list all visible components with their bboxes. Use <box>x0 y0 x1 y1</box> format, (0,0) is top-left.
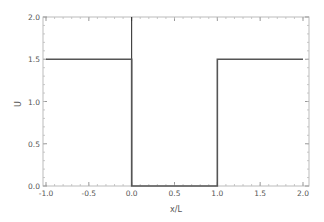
y-tick-label: 0.5 <box>28 140 40 149</box>
y-tick-label: 1.0 <box>28 98 40 107</box>
potential-curve <box>46 59 303 186</box>
x-tick-label: 1.5 <box>254 189 266 198</box>
y-axis-label: U <box>14 101 23 107</box>
x-axis-label: x/L <box>170 205 182 214</box>
y-axis-ticks: 0.00.51.01.52.0 <box>28 13 309 191</box>
y-tick-label: 0.0 <box>28 182 40 191</box>
x-tick-label: -1.0 <box>39 189 54 198</box>
x-tick-label: 0.5 <box>169 189 181 198</box>
y-tick-label: 1.5 <box>28 55 40 64</box>
plot-frame <box>43 17 309 186</box>
x-tick-label: -0.5 <box>82 189 97 198</box>
x-tick-label: 0.0 <box>126 189 138 198</box>
y-tick-label: 2.0 <box>28 13 40 22</box>
x-tick-label: 2.0 <box>297 189 309 198</box>
potential-step-chart: -1.0-0.50.00.51.01.52.0 0.00.51.01.52.0 … <box>0 0 324 222</box>
x-axis-ticks: -1.0-0.50.00.51.01.52.0 <box>39 17 310 198</box>
x-tick-label: 1.0 <box>211 189 223 198</box>
